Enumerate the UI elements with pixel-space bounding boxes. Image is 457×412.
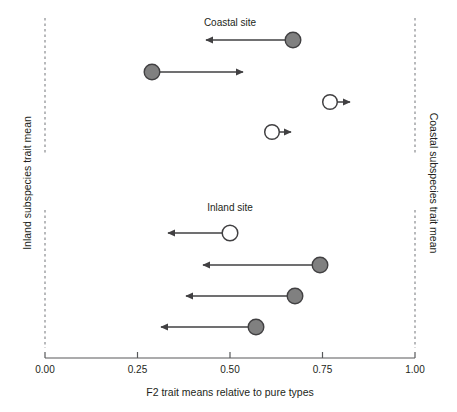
x-axis-title: F2 trait means relative to pure types [146, 386, 314, 398]
figure-canvas: Coastal site Inland site [0, 0, 457, 412]
x-axis: 0.00 0.25 0.50 0.75 1.00 F2 trait means … [35, 352, 425, 398]
marker-filled [248, 319, 264, 335]
arrow-inland-1 [168, 225, 238, 241]
marker-filled [287, 288, 303, 304]
arrow-inland-2 [203, 257, 328, 273]
inland-site-label: Inland site [207, 202, 253, 213]
x-tick-label-0: 0.00 [35, 364, 55, 375]
left-reference-label: Inland subspecies trait mean [21, 116, 33, 250]
arrow-coastal-1 [206, 32, 301, 48]
arrow-coastal-4 [265, 125, 291, 140]
x-tick-label-1: 0.25 [128, 364, 148, 375]
group-inland-site: Inland site [161, 202, 328, 335]
x-tick-label-2: 0.50 [220, 364, 240, 375]
marker-open [323, 95, 338, 110]
arrow-inland-3 [186, 288, 303, 304]
marker-open [265, 125, 280, 140]
right-reference-label: Coastal subspecies trait mean [428, 113, 440, 254]
arrow-coastal-3 [323, 95, 350, 110]
group-coastal-site: Coastal site [144, 17, 350, 139]
coastal-site-label: Coastal site [204, 17, 257, 28]
x-tick-label-4: 1.00 [405, 364, 425, 375]
marker-filled [312, 257, 328, 273]
marker-filled [285, 32, 301, 48]
x-tick-label-3: 0.75 [313, 364, 333, 375]
arrow-inland-4 [161, 319, 264, 335]
marker-filled [144, 64, 160, 80]
marker-open [222, 225, 238, 241]
arrow-coastal-2 [144, 64, 243, 80]
